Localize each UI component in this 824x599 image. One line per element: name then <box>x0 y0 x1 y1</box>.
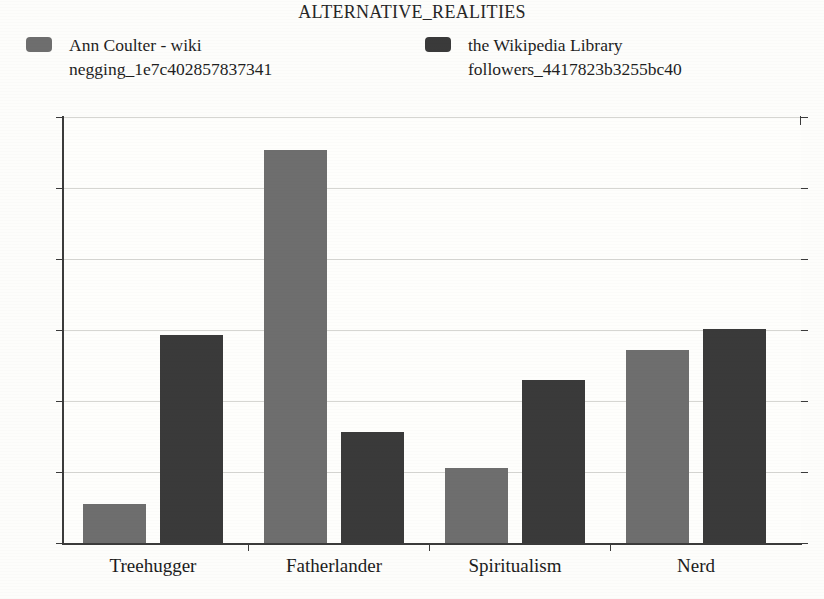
y-tick-mark <box>56 401 63 402</box>
legend-item-series-1: Ann Coulter - wiki negging_1e7c402857837… <box>26 33 272 81</box>
y-tick-mark <box>56 330 63 331</box>
bar <box>445 468 508 543</box>
chart-legend: Ann Coulter - wiki negging_1e7c402857837… <box>0 33 824 85</box>
y-tick-mark-right <box>801 259 808 260</box>
y-tick-mark <box>56 188 63 189</box>
y-tick-mark-right <box>801 117 808 118</box>
bar <box>160 335 223 543</box>
gridline <box>63 188 801 189</box>
y-tick-mark-right <box>801 188 808 189</box>
x-tick-mark <box>248 543 249 551</box>
chart-plot-area: 00.10.20.30.40.50.6 TreehuggerFatherland… <box>63 117 801 543</box>
y-tick-mark-right <box>801 543 808 544</box>
bar <box>626 350 689 543</box>
y-tick-mark-right <box>801 330 808 331</box>
page-title: ALTERNATIVE_REALITIES <box>0 2 824 23</box>
y-tick-mark-right <box>801 472 808 473</box>
legend-item-series-2: the Wikipedia Library followers_4417823b… <box>425 33 682 81</box>
gridline <box>63 117 801 118</box>
x-tick-label: Nerd <box>606 555 786 577</box>
legend-swatch-series-1 <box>26 37 52 52</box>
y-tick-mark <box>56 543 63 544</box>
x-tick-label: Spiritualism <box>425 555 605 577</box>
bar <box>703 329 766 543</box>
bar <box>522 380 585 543</box>
legend-label-series-1: Ann Coulter - wiki negging_1e7c402857837… <box>69 33 272 81</box>
y-tick-mark <box>56 117 63 118</box>
x-tick-label: Fatherlander <box>244 555 424 577</box>
y-tick-mark <box>56 259 63 260</box>
x-tick-mark <box>429 543 430 551</box>
bar <box>341 432 404 543</box>
legend-swatch-series-2 <box>425 37 451 52</box>
gridline <box>63 259 801 260</box>
legend-label-series-2: the Wikipedia Library followers_4417823b… <box>468 33 682 81</box>
x-axis-line <box>62 543 802 545</box>
bar <box>264 150 327 543</box>
y-tick-mark-right <box>801 401 808 402</box>
y-tick-mark <box>56 472 63 473</box>
gridline <box>63 330 801 331</box>
x-tick-label: Treehugger <box>63 555 243 577</box>
x-tick-mark <box>610 543 611 551</box>
bar <box>83 504 146 543</box>
